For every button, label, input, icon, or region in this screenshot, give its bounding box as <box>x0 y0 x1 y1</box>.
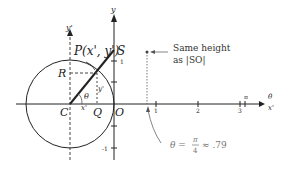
label-S: S <box>117 44 125 58</box>
theta-frac-den: 4 <box>193 147 198 155</box>
theta-pointer-icon <box>148 110 161 143</box>
y-arrow-icon <box>111 14 117 22</box>
label-theta: θ <box>84 92 89 101</box>
label-x-prime-small: x' <box>81 104 87 112</box>
annotation-line1: Same height <box>173 43 231 53</box>
label-C: C <box>60 106 69 119</box>
label-theta-axis: θ <box>268 93 273 101</box>
annotation-arrow-icon <box>150 50 155 54</box>
tick-theta-1: 1 <box>154 107 158 114</box>
label-y-prime: y' <box>65 23 73 32</box>
tick-theta-pi: π <box>244 93 248 100</box>
tick-theta-3: 3 <box>238 107 242 114</box>
theta-frac-num: π <box>192 136 198 144</box>
label-y-prime-small: y' <box>97 85 104 93</box>
theta-eq: θ = <box>170 140 186 150</box>
label-P: P(x', y') <box>73 44 120 58</box>
unit-circle-diagram: y' y P(x', y') S R C Q O θ y' x' 1 -1 1 … <box>0 0 286 181</box>
label-R: R <box>57 67 66 80</box>
tick-y-1: 1 <box>120 58 124 65</box>
tick-theta-2: 2 <box>196 107 200 114</box>
ray-CS <box>70 50 114 104</box>
annotation-line2: as |SO| <box>173 55 205 66</box>
label-x-prime: x' <box>268 104 274 112</box>
label-y: y <box>110 5 116 14</box>
tick-y-neg1: -1 <box>102 145 108 152</box>
theta-value: ≈ .79 <box>202 140 227 150</box>
label-Q: Q <box>93 106 102 119</box>
diagram-canvas: y' y P(x', y') S R C Q O θ y' x' 1 -1 1 … <box>0 0 286 181</box>
angle-arc-icon <box>78 94 82 104</box>
label-O: O <box>115 106 124 119</box>
